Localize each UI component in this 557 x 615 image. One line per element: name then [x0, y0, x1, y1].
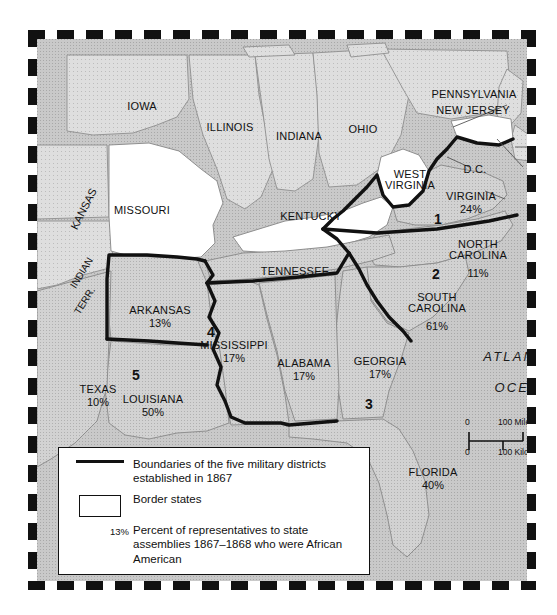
legend-key-border-box — [69, 492, 131, 517]
frame-border-bottom — [28, 581, 536, 590]
frame-border-right — [527, 30, 536, 590]
map-page: IOWA ILLINOIS INDIANA OHIO PENNSYLVANIA … — [0, 0, 557, 615]
state-arkansas — [107, 255, 217, 347]
legend-label-percent: Percent of representatives to state asse… — [131, 523, 359, 566]
district-line-swatch — [76, 460, 124, 463]
scale-miles-zero: 0 — [465, 417, 470, 427]
state-louisiana — [105, 341, 229, 439]
legend-label-districts: Boundaries of the five military district… — [131, 457, 359, 486]
legend-row-border-states: Border states — [69, 492, 359, 517]
percent-example-value: 13% — [69, 526, 131, 537]
legend-key-percent: 13% — [69, 523, 131, 537]
scale-miles-value: 100 Miles — [498, 417, 527, 427]
scale-km-value: 100 Kilometers — [498, 447, 527, 457]
map-legend: Boundaries of the five military district… — [58, 447, 370, 575]
legend-label-border-states: Border states — [131, 492, 201, 506]
frame-border-left — [28, 30, 37, 590]
scale-bar: 0 100 Miles 0 100 Kilometers — [465, 417, 527, 465]
border-state-swatch — [79, 495, 121, 517]
legend-row-percent: 13% Percent of representatives to state … — [69, 523, 359, 566]
frame-border-top — [28, 30, 536, 39]
scale-km-zero: 0 — [465, 447, 470, 457]
legend-row-districts: Boundaries of the five military district… — [69, 457, 359, 486]
legend-key-district-line — [69, 457, 131, 463]
